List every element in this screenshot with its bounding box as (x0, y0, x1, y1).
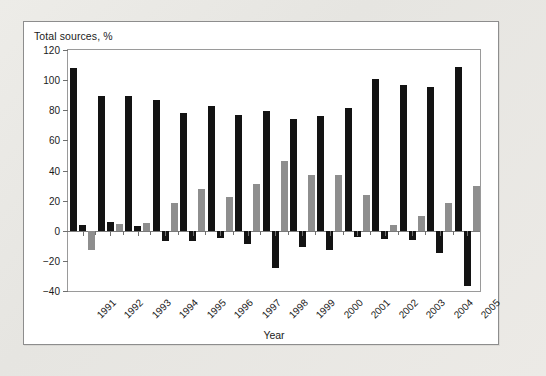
y-axis-tick-label: −20 (43, 255, 60, 266)
y-axis-tick-label: 0 (54, 225, 60, 236)
y-axis-tick (63, 291, 68, 292)
y-axis-tick-label: 60 (49, 135, 60, 146)
bar-net-borrowing-1992 (116, 224, 123, 231)
x-axis-tick (248, 231, 249, 236)
x-axis-label-1993: 1993 (149, 297, 173, 321)
x-axis-tick (220, 231, 221, 236)
bar-net-equity-issues-1998 (272, 231, 279, 269)
x-axis-tick (83, 231, 84, 236)
x-axis-tick (110, 231, 111, 236)
x-axis-tick (165, 231, 166, 236)
y-axis-tick-label: 120 (43, 45, 60, 56)
x-axis-label-1994: 1994 (177, 297, 201, 321)
x-axis-tick (193, 231, 194, 236)
y-axis-tick-label: 100 (43, 75, 60, 86)
x-axis-minor-tick (178, 231, 179, 235)
bar-net-borrowing-1994 (171, 203, 178, 231)
page-background: Total sources, % Internal fundsNet equit… (0, 0, 546, 376)
y-axis-tick (63, 201, 68, 202)
x-axis-label-1997: 1997 (259, 297, 283, 321)
bar-group (290, 50, 315, 291)
bar-group (70, 50, 95, 291)
y-axis-tick (63, 261, 68, 262)
x-axis-tick (385, 231, 386, 236)
x-axis-minor-tick (343, 231, 344, 235)
bar-internal-funds-1991 (70, 68, 77, 231)
y-axis-tick (63, 80, 68, 81)
bar-net-borrowing-2002 (390, 225, 397, 231)
x-axis-minor-tick (288, 231, 289, 235)
x-axis-minor-tick (233, 231, 234, 235)
x-axis-label-1991: 1991 (94, 297, 118, 321)
x-axis-minor-tick (205, 231, 206, 235)
bar-net-borrowing-2001 (363, 195, 370, 230)
x-axis-tick (138, 231, 139, 236)
plot-area: 120100806040200−20−40 (67, 49, 481, 292)
bar-internal-funds-1998 (263, 111, 270, 231)
bar-net-borrowing-2000 (335, 175, 342, 231)
x-axis-minor-tick (123, 231, 124, 235)
y-axis-tick (63, 171, 68, 172)
bar-internal-funds-2000 (317, 116, 324, 231)
x-axis-title: Year (67, 329, 481, 341)
y-axis-tick-label: 80 (49, 105, 60, 116)
bar-net-borrowing-1999 (308, 175, 315, 231)
x-axis-minor-tick (398, 231, 399, 235)
x-axis-tick (357, 231, 358, 236)
bars-layer: 120100806040200−20−40 (68, 50, 480, 291)
x-axis-minor-tick (315, 231, 316, 235)
x-axis-label-2001: 2001 (369, 297, 393, 321)
bar-group (427, 50, 452, 291)
bar-internal-funds-2003 (400, 85, 407, 230)
bar-net-borrowing-1996 (226, 197, 233, 231)
bar-internal-funds-1992 (98, 96, 105, 231)
y-axis-tick-label: −40 (43, 286, 60, 297)
x-axis-tick (275, 231, 276, 236)
x-axis-label-1996: 1996 (232, 297, 256, 321)
x-axis-label-1998: 1998 (287, 297, 311, 321)
x-axis-label-1992: 1992 (122, 297, 146, 321)
y-axis-tick (63, 50, 68, 51)
x-axis-minor-tick (150, 231, 151, 235)
y-axis-caption: Total sources, % (34, 30, 113, 42)
bar-group (208, 50, 233, 291)
bar-net-equity-issues-1992 (107, 222, 114, 230)
bar-internal-funds-2002 (372, 79, 379, 231)
x-axis-minor-tick (453, 231, 454, 235)
bar-internal-funds-2005 (455, 67, 462, 230)
bar-group (455, 50, 480, 291)
x-axis-label-2003: 2003 (424, 297, 448, 321)
y-axis-tick (63, 231, 68, 232)
x-axis-tick (412, 231, 413, 236)
x-axis-minor-tick (95, 231, 96, 235)
bar-internal-funds-1994 (153, 100, 160, 231)
bar-net-borrowing-2004 (445, 203, 452, 231)
bar-internal-funds-1999 (290, 119, 297, 230)
bar-internal-funds-2001 (345, 108, 352, 231)
bar-internal-funds-2004 (427, 87, 434, 231)
x-axis-minor-tick (425, 231, 426, 235)
bar-internal-funds-1996 (208, 106, 215, 231)
figure-card: Total sources, % Internal fundsNet equit… (23, 21, 499, 345)
bar-net-borrowing-2003 (418, 216, 425, 230)
bar-internal-funds-1995 (180, 113, 187, 231)
x-axis-label-2005: 2005 (479, 297, 503, 321)
x-axis-minor-tick (370, 231, 371, 235)
x-axis-label-2000: 2000 (341, 297, 365, 321)
bar-net-borrowing-1997 (253, 184, 260, 231)
y-axis-tick-label: 40 (49, 165, 60, 176)
bar-internal-funds-1997 (235, 115, 242, 231)
bar-group (345, 50, 370, 291)
x-axis-label-2002: 2002 (396, 297, 420, 321)
bar-internal-funds-1993 (125, 96, 132, 231)
y-axis-tick-label: 20 (49, 195, 60, 206)
bar-group (317, 50, 342, 291)
x-axis-tick (302, 231, 303, 236)
bar-net-equity-issues-2005 (464, 231, 471, 287)
bar-group (235, 50, 260, 291)
bar-group (125, 50, 150, 291)
bar-net-borrowing-1995 (198, 189, 205, 231)
bar-group (400, 50, 425, 291)
bar-net-borrowing-2005 (473, 186, 480, 231)
bar-group (180, 50, 205, 291)
